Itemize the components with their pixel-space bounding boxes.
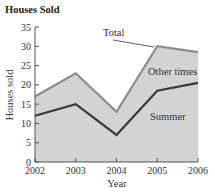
y-tick-label: 25 [21, 60, 31, 71]
x-tick-label: 2006 [188, 165, 208, 176]
y-tick-label: 30 [21, 41, 31, 52]
y-tick-label: 35 [21, 22, 31, 33]
y-tick-label: 10 [21, 118, 31, 129]
total-area [35, 46, 198, 162]
annotation-other-times: Other times [148, 66, 197, 77]
annotation-summer: Summer [150, 111, 186, 122]
y-tick-label: 20 [21, 79, 31, 90]
x-tick-label: 2002 [25, 165, 45, 176]
x-tick-label: 2003 [66, 165, 86, 176]
chart-title: Houses Sold [5, 4, 60, 15]
annotation-total: Total [103, 27, 125, 38]
x-axis-label: Year [107, 178, 127, 189]
y-axis-label: Houses sold [4, 69, 15, 121]
x-tick-label: 2004 [107, 165, 127, 176]
plot-area [35, 46, 198, 162]
houses-sold-chart: Houses Sold 05101520253035 2002200320042… [0, 0, 215, 195]
y-tick-label: 15 [21, 99, 31, 110]
x-tick-label: 2005 [147, 165, 167, 176]
y-tick-label: 5 [26, 137, 31, 148]
annotation-arrow [113, 40, 154, 47]
chart-svg: Houses Sold 05101520253035 2002200320042… [0, 0, 215, 195]
